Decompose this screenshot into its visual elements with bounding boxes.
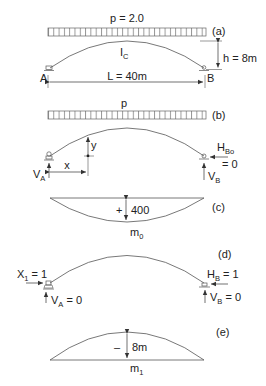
- x-label: x: [64, 159, 70, 171]
- support-label-a: A: [40, 72, 48, 84]
- support-label-b: B: [207, 72, 214, 84]
- panel-a: p = 2.0 (a) IC h = 8m L = 40m A B: [40, 12, 257, 88]
- diagram-name: m1: [130, 362, 143, 377]
- panel-tag-b: (b): [212, 109, 225, 121]
- arch-diagram: p = 2.0 (a) IC h = 8m L = 40m A B p (b): [0, 0, 266, 386]
- span-label: L = 40m: [107, 70, 147, 82]
- sign-label: –: [114, 341, 121, 353]
- reaction-vb-label: VB: [208, 170, 220, 185]
- arch-curve: [50, 256, 204, 284]
- value-label: 8m: [132, 341, 147, 353]
- arch-curve: [50, 128, 204, 156]
- panel-tag-d: (d): [218, 248, 231, 260]
- roller-support-a: [43, 281, 54, 289]
- reaction-vb-label: VB = 0: [210, 291, 241, 306]
- reaction-va-label: VA: [33, 168, 45, 183]
- sign-label: +: [116, 204, 122, 216]
- panel-b: p (b) y x VA HBo = 0 VB: [33, 97, 238, 185]
- distributed-load: [48, 111, 206, 119]
- reaction-va-label: VA = 0: [51, 294, 82, 309]
- reaction-hb-label: HB = 1: [207, 268, 239, 283]
- reaction-hbo-value: = 0: [222, 158, 238, 170]
- redundant-x1-label: X1 = 1: [17, 268, 47, 283]
- panel-tag-c: (c): [212, 201, 225, 213]
- panel-tag-e: (e): [216, 326, 229, 338]
- panel-d: (d) X1 = 1 HB = 1 VA = 0 VB = 0: [17, 248, 241, 309]
- value-label: 400: [131, 204, 149, 216]
- panel-c: + 400 m0 (c): [50, 198, 225, 241]
- reaction-hbo-label: HBo: [217, 141, 234, 156]
- y-label: y: [91, 139, 97, 151]
- load-label: p = 2.0: [110, 12, 144, 24]
- panel-tag-a: (a): [212, 25, 225, 37]
- roller-support-b: [199, 283, 210, 287]
- roller-support-a: [44, 152, 54, 160]
- height-label: h = 8m: [223, 52, 257, 64]
- load-label: p: [121, 97, 127, 109]
- distributed-load: [48, 28, 206, 36]
- panel-e: (e) – 8m m1: [50, 326, 229, 377]
- roller-support-b: [199, 154, 209, 159]
- moment-diagram-m0: [50, 198, 204, 222]
- diagram-name: m0: [130, 226, 143, 241]
- inertia-label: IC: [120, 46, 129, 61]
